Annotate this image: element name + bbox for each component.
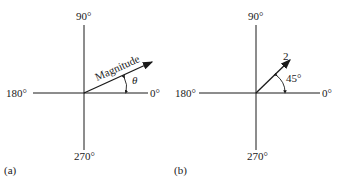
- caption-b: (b): [174, 164, 187, 177]
- label-0: 0°: [322, 87, 332, 99]
- angle-arc: [124, 77, 127, 92]
- theta-label: θ: [132, 74, 138, 86]
- phasor-diagrams: 90° 180° 0° 270° Magnitude θ (a) 90° 180…: [0, 0, 343, 184]
- panel-a: 90° 180° 0° 270° Magnitude θ (a): [4, 10, 160, 177]
- angle-label: 45°: [286, 72, 301, 84]
- label-180: 180°: [6, 87, 27, 99]
- caption-a: (a): [4, 164, 17, 177]
- magnitude-label: 2: [283, 50, 289, 62]
- label-270: 270°: [247, 150, 268, 162]
- label-90: 90°: [248, 10, 263, 22]
- label-180: 180°: [175, 87, 196, 99]
- label-270: 270°: [74, 150, 95, 162]
- label-90: 90°: [76, 10, 91, 22]
- label-0: 0°: [150, 87, 160, 99]
- angle-arc: [276, 75, 285, 92]
- panel-b: 90° 180° 0° 270° 2 45° (b): [174, 10, 332, 177]
